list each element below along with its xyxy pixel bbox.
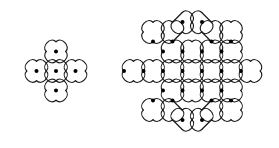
kolam-dot: [220, 69, 224, 73]
figure-background: [0, 0, 279, 148]
kolam-dot: [200, 20, 204, 24]
kolam-dot: [161, 69, 165, 73]
kolam-dot: [151, 99, 155, 103]
kolam-dot: [200, 69, 204, 73]
kolam-dot: [74, 69, 78, 73]
kolam-dot: [229, 99, 233, 103]
kolam-dot: [54, 89, 58, 93]
kolam-dot: [171, 99, 175, 103]
kolam-dot: [161, 89, 165, 93]
kolam-dot: [35, 69, 39, 73]
kolam-dot: [54, 69, 58, 73]
kolam-dot: [200, 89, 204, 93]
kolam-dot: [200, 50, 204, 54]
kolam-dot: [181, 89, 185, 93]
kolam-dot: [210, 99, 214, 103]
kolam-dot: [171, 40, 175, 44]
kolam-dot: [181, 118, 185, 122]
kolam-dot: [54, 50, 58, 54]
kolam-figure-canvas: [0, 0, 279, 148]
kolam-dot: [122, 69, 126, 73]
kolam-dot: [210, 40, 214, 44]
kolam-dot: [181, 69, 185, 73]
kolam-dot: [220, 50, 224, 54]
kolam-dot: [239, 69, 243, 73]
kolam-dot: [181, 50, 185, 54]
kolam-dot: [181, 20, 185, 24]
kolam-dot: [161, 50, 165, 54]
kolam-dot: [151, 40, 155, 44]
kolam-dot: [142, 69, 146, 73]
kolam-dot: [220, 89, 224, 93]
kolam-dot: [229, 40, 233, 44]
kolam-dot: [200, 118, 204, 122]
